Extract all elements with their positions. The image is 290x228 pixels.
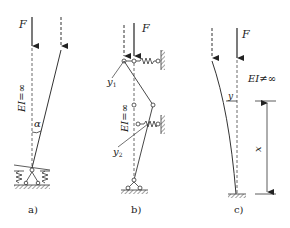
spring-right-icon [42,171,48,183]
force-label: F [241,28,250,41]
spring-left-icon [16,171,22,183]
elastic-support [14,168,50,189]
diagram-canvas: F EI=∞ α a) [0,0,290,228]
coordinate-label: x [252,146,263,152]
bar-lower-deflected [134,105,153,180]
wall-top-hatch [161,50,165,70]
panel-a: F EI=∞ α a) [14,17,61,215]
panel-c: F y EI≠∞ x c) [212,28,276,215]
caption-c: c) [234,204,244,215]
rigid-bar [32,50,61,168]
pin-support [121,178,148,194]
stiffness-label: EI=∞ [16,84,27,113]
force-label: F [141,22,150,35]
spring-top-icon [140,58,154,64]
stiffness-label: EI≠∞ [247,73,276,84]
y2-label: y2 [112,146,123,158]
bar-upper-deflected [124,61,153,105]
caption-b: b) [131,204,141,215]
hinge-mid-displaced [151,103,155,107]
ground-hatch [121,190,148,194]
force-label: F [18,18,27,31]
caption-a: a) [28,204,38,215]
hinge-top [132,59,136,63]
hinge-mid-original [132,103,136,107]
wall-mid-hatch [161,115,165,134]
stiffness-label: EI=∞ [119,104,130,133]
angle-label: α [34,118,41,129]
panel-b: F y1 y2 EI=∞ [106,22,165,215]
angle-arc [32,131,41,133]
ground-hatch [14,185,50,189]
y1-leader [112,61,124,78]
deflection-curve [212,61,236,194]
y1-label: y1 [106,76,116,88]
ground-hatch [228,194,246,198]
deflection-label: y [227,91,234,101]
